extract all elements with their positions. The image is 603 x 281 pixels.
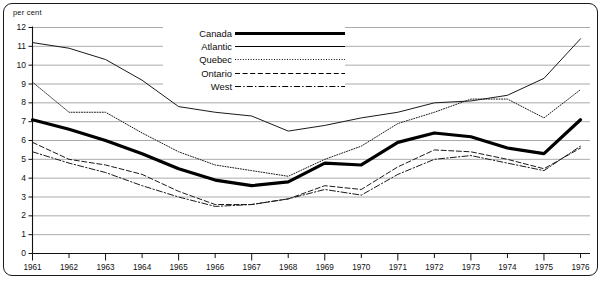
legend-swatch-west — [235, 81, 345, 92]
legend-item-atlantic: Atlantic — [163, 40, 345, 53]
x-tick-label-1969: 1969 — [305, 263, 345, 272]
x-tick-label-1968: 1968 — [268, 263, 308, 272]
x-tick-label-1970: 1970 — [341, 263, 381, 272]
x-tick-label-1973: 1973 — [451, 263, 491, 272]
x-tick-label-1974: 1974 — [487, 263, 527, 272]
legend-item-canada: Canada — [163, 27, 345, 40]
x-tick-label-1971: 1971 — [378, 263, 418, 272]
x-tick-label-1975: 1975 — [524, 263, 564, 272]
y-tick-label-11: 11 — [10, 41, 26, 51]
x-tick-label-1967: 1967 — [232, 263, 272, 272]
y-tick-label-10: 10 — [10, 60, 26, 70]
y-tick-label-3: 3 — [10, 192, 26, 202]
legend-label-canada: Canada — [199, 28, 235, 39]
y-tick-label-12: 12 — [10, 22, 26, 32]
legend-item-ontario: Ontario — [163, 67, 345, 80]
legend-item-west: West — [163, 80, 345, 93]
y-tick-label-9: 9 — [10, 79, 26, 89]
legend-swatch-canada — [235, 28, 345, 39]
y-tick-label-1: 1 — [10, 229, 26, 239]
legend-swatch-quebec — [235, 54, 345, 65]
y-tick-label-0: 0 — [10, 248, 26, 258]
x-tick-label-1966: 1966 — [195, 263, 235, 272]
x-tick-label-1963: 1963 — [86, 263, 126, 272]
y-tick-label-4: 4 — [10, 173, 26, 183]
y-tick-label-7: 7 — [10, 116, 26, 126]
x-axis-ticks — [33, 254, 581, 261]
legend-swatch-ontario — [235, 68, 345, 79]
y-axis-ticks — [29, 28, 33, 254]
x-tick-label-1961: 1961 — [13, 263, 53, 272]
x-tick-label-1962: 1962 — [49, 263, 89, 272]
y-tick-label-6: 6 — [10, 135, 26, 145]
legend-label-ontario: Ontario — [201, 68, 235, 79]
x-tick-label-1972: 1972 — [414, 263, 454, 272]
x-tick-label-1976: 1976 — [561, 263, 601, 272]
x-tick-label-1964: 1964 — [122, 263, 162, 272]
y-tick-label-5: 5 — [10, 154, 26, 164]
legend-swatch-atlantic — [235, 41, 345, 52]
chart-legend: CanadaAtlanticQuebecOntarioWest — [163, 27, 345, 93]
chart-figure: per cent 0123456789101112 19611962196319… — [0, 0, 603, 281]
legend-label-quebec: Quebec — [199, 54, 235, 65]
y-tick-label-2: 2 — [10, 210, 26, 220]
legend-label-west: West — [211, 81, 235, 92]
x-tick-label-1965: 1965 — [159, 263, 199, 272]
series-line-west — [33, 146, 581, 206]
legend-item-quebec: Quebec — [163, 53, 345, 66]
y-tick-label-8: 8 — [10, 97, 26, 107]
legend-label-atlantic: Atlantic — [201, 41, 235, 52]
